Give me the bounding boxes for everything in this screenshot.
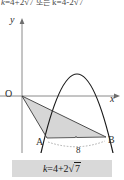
header-equation-body: =4+2 xyxy=(5,0,24,7)
answer-box: k=4+2√7 xyxy=(12,160,112,177)
y-axis-arrowhead xyxy=(20,18,25,24)
answer-body: =4+2 xyxy=(47,163,68,174)
header-clipped-equation: k=4+2√7 또는 k=4-2√7 xyxy=(0,0,124,9)
y-axis-label: y xyxy=(10,14,14,25)
header-second-equation: k=4-2 xyxy=(52,0,74,7)
segment-length-label: 8 xyxy=(76,145,81,155)
x-axis-label: x xyxy=(110,93,114,104)
figure-svg xyxy=(0,9,124,153)
point-a-label: A xyxy=(36,136,43,147)
answer-radicand: 7 xyxy=(74,162,81,174)
point-b-label: B xyxy=(108,134,115,145)
origin-label: O xyxy=(5,88,12,99)
header-equation-text: k=4+2√7 또는 k=4-2√7 xyxy=(1,0,83,7)
header-or-word: 또는 xyxy=(36,0,50,7)
x-axis-arrowhead xyxy=(114,94,120,99)
header-second-radicand: 7 xyxy=(79,0,84,7)
answer-text: k=4+2√7 xyxy=(43,163,81,174)
coordinate-figure: y x O A B 8 xyxy=(0,9,124,153)
diagram-page: k=4+2√7 또는 k=4-2√7 y x O xyxy=(0,0,124,180)
header-radicand: 7 xyxy=(29,0,34,7)
parabola-curve xyxy=(41,74,113,153)
midpoint-tick xyxy=(75,136,77,138)
radical-sign-2: √ xyxy=(74,0,79,7)
